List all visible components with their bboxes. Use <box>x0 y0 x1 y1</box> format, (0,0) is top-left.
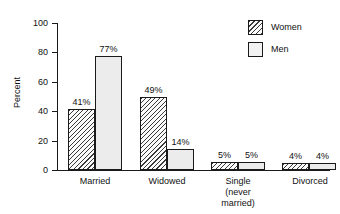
category-label-divorced: Divorced <box>278 176 340 187</box>
bar-women-married <box>68 109 95 170</box>
bar-women-widowed <box>140 97 167 170</box>
category-label-widowed: Widowed <box>135 176 199 187</box>
bar-men-married <box>95 56 122 170</box>
bar-value-men-single: 5% <box>232 151 271 160</box>
y-tick-100 <box>52 23 57 24</box>
y-tick-20 <box>52 141 57 142</box>
y-tick-80 <box>52 52 57 53</box>
bar-value-women-widowed: 49% <box>134 86 173 95</box>
legend-label-women: Women <box>271 23 302 32</box>
y-tick-label-40: 40 <box>38 107 48 116</box>
bar-women-divorced <box>282 163 309 170</box>
y-axis-line <box>57 23 58 170</box>
y-tick-label-20: 20 <box>38 137 48 146</box>
category-label-married: Married <box>65 176 125 187</box>
y-tick-40 <box>52 111 57 112</box>
y-tick-60 <box>52 82 57 83</box>
y-axis-title: Percent <box>13 63 22 123</box>
bar-women-single <box>211 162 238 170</box>
x-axis-line <box>57 170 330 171</box>
bar-men-divorced <box>309 163 336 170</box>
y-tick-label-80: 80 <box>38 48 48 57</box>
y-tick-label-60: 60 <box>38 78 48 87</box>
legend-swatch-women-icon <box>248 20 263 35</box>
legend-label-men: Men <box>271 45 289 54</box>
y-tick-label-0: 0 <box>43 166 48 175</box>
bar-value-men-widowed: 14% <box>161 138 200 147</box>
bar-men-single <box>238 162 265 170</box>
category-label-single: Single (never married) <box>206 176 270 209</box>
y-tick-0 <box>52 170 57 171</box>
legend-swatch-men-icon <box>248 42 263 57</box>
bar-value-men-divorced: 4% <box>303 152 340 161</box>
bar-value-men-married: 77% <box>89 45 128 54</box>
y-tick-label-100: 100 <box>33 19 48 28</box>
bar-men-widowed <box>167 149 194 170</box>
